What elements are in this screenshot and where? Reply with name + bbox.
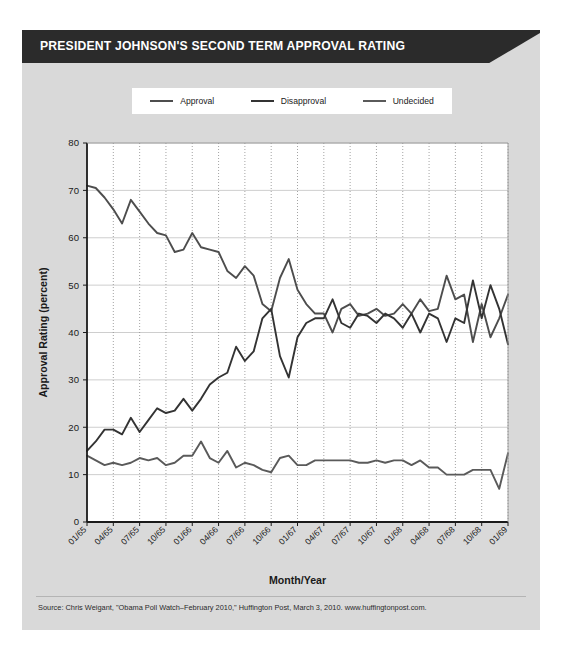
y-tick-label: 70 (68, 185, 79, 196)
x-tick-label: 04/68 (408, 524, 430, 546)
x-tick-label: 10/67 (356, 524, 378, 546)
x-tick-label: 01/66 (171, 524, 193, 546)
x-axis-title: Month/Year (269, 574, 326, 586)
x-tick-label: 07/66 (224, 524, 246, 546)
y-tick-label: 40 (68, 327, 79, 338)
x-tick-label: 07/67 (329, 524, 351, 546)
y-axis-title: Approval Rating (percent) (37, 267, 49, 397)
x-axis-tick-labels: 01/6504/6507/6510/6501/6604/6607/6610/66… (66, 524, 509, 546)
source-note: Source: Chris Weigant, "Obama Poll Watch… (38, 603, 524, 613)
y-axis-tick-labels: 01020304050607080 (68, 137, 79, 527)
chart-figure: PRESIDENT JOHNSON'S SECOND TERM APPROVAL… (22, 30, 540, 630)
x-tick-label: 04/66 (198, 524, 220, 546)
y-tick-label: 0 (74, 516, 79, 527)
x-tick-label: 07/65 (119, 524, 141, 546)
x-tick-label: 10/65 (145, 524, 167, 546)
x-tick-label: 01/67 (277, 524, 299, 546)
x-tick-label: 04/65 (92, 524, 114, 546)
x-tick-label: 01/68 (382, 524, 404, 546)
y-tick-label: 80 (68, 137, 79, 148)
y-tick-label: 10 (68, 469, 79, 480)
x-tick-label: 10/68 (461, 524, 483, 546)
x-tick-label: 10/66 (250, 524, 272, 546)
x-tick-label: 07/68 (435, 524, 457, 546)
y-tick-label: 60 (68, 232, 79, 243)
y-tick-label: 50 (68, 280, 79, 291)
x-tick-label: 04/67 (303, 524, 325, 546)
chart-canvas: 01020304050607080 01/6504/6507/6510/6501… (22, 30, 540, 630)
y-tick-label: 30 (68, 374, 79, 385)
x-tick-label: 01/69 (487, 524, 509, 546)
source-divider (36, 596, 526, 597)
plot-area: 01020304050607080 01/6504/6507/6510/6501… (22, 30, 540, 630)
x-tick-label: 01/65 (66, 524, 88, 546)
y-tick-label: 20 (68, 422, 79, 433)
